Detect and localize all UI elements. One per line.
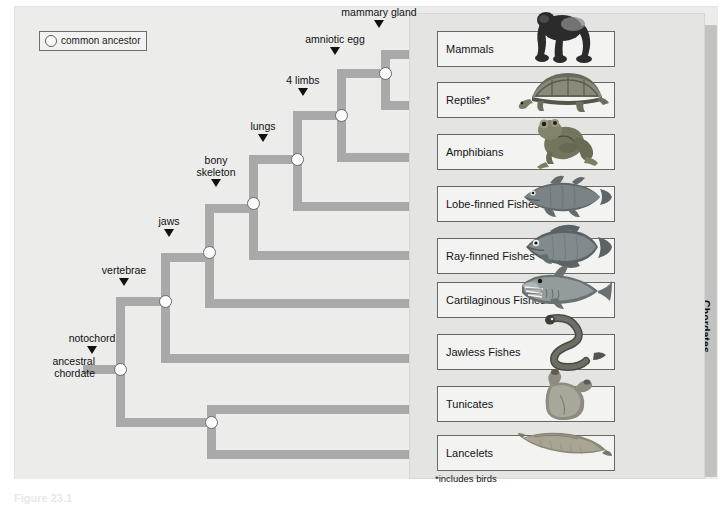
taxon-box-ray-finned-fishes[interactable]: Ray-finned Fishes (437, 238, 615, 274)
figure-phylogenetic-tree: common ancestor (0, 0, 720, 506)
arrow-down-icon (374, 20, 384, 28)
trait-bony-skeleton-label-line1: bony (183, 155, 249, 167)
arrow-down-icon (119, 278, 129, 286)
trait-amniotic-egg: amniotic egg (287, 34, 383, 55)
trait-four-limbs-label: 4 limbs (271, 75, 335, 87)
taxon-box-amphibians[interactable]: Amphibians (437, 134, 615, 170)
taxon-box-reptiles[interactable]: Reptiles* (437, 82, 615, 118)
trait-notochord: notochord (55, 333, 129, 354)
trait-four-limbs: 4 limbs (271, 75, 335, 96)
trait-mammary-gland-label: mammary gland (315, 7, 443, 19)
branch-to-tunicates (207, 405, 439, 414)
taxon-box-tunicates[interactable]: Tunicates (437, 386, 615, 422)
branch-to-lancelets (207, 450, 439, 459)
taxon-label-tunicates: Tunicates (446, 398, 493, 410)
arrow-down-icon (258, 134, 268, 142)
branch-vertebrates-vertical (161, 253, 170, 363)
root-taxon-label: ancestral chordate (23, 355, 95, 379)
trait-vertebrae-label: vertebrae (87, 265, 161, 277)
taxon-box-cartilaginous-fishes[interactable]: Cartilaginous Fishes (437, 282, 615, 318)
trait-lungs: lungs (233, 121, 293, 142)
taxon-label-reptiles: Reptiles* (446, 94, 490, 106)
node-bony-skeleton (247, 197, 260, 210)
taxon-box-lobe-finned-fishes[interactable]: Lobe-finned Fishes (437, 186, 615, 222)
trait-jaws: jaws (143, 216, 195, 237)
node-tunicates-lancelets (205, 416, 218, 429)
trait-jaws-label: jaws (143, 216, 195, 228)
figure-caption: Figure 23.1 (14, 492, 72, 504)
node-chordates (114, 363, 127, 376)
arrow-down-icon (164, 229, 174, 237)
branch-root-vertical (116, 297, 125, 427)
branch-bony-upper (249, 155, 296, 164)
node-tetrapods (335, 109, 348, 122)
branch-to-cartilaginous-fishes (205, 299, 439, 308)
legend-common-ancestor: common ancestor (39, 31, 147, 51)
trait-lungs-label: lungs (233, 121, 293, 133)
footnote-includes-birds: *includes birds (435, 473, 497, 484)
taxon-label-jawless-fishes: Jawless Fishes (446, 346, 521, 358)
taxon-box-jawless-fishes[interactable]: Jawless Fishes (437, 334, 615, 370)
trait-bony-skeleton: bony skeleton (183, 155, 249, 187)
branch-lungs-upper (293, 111, 341, 120)
taxon-label-mammals: Mammals (446, 43, 494, 55)
taxon-box-mammals[interactable]: Mammals (437, 31, 615, 67)
diagram-panel: common ancestor (14, 6, 718, 479)
taxon-label-lancelets: Lancelets (446, 447, 493, 459)
branch-vertebrates-upper (161, 253, 207, 262)
legend-label: common ancestor (61, 36, 140, 46)
trait-mammary-gland: mammary gland (315, 7, 443, 28)
branch-gnathostomes-upper (205, 204, 253, 213)
node-amniotes (379, 67, 392, 80)
arrow-down-icon (87, 346, 97, 354)
trait-bony-skeleton-label-line2: skeleton (183, 167, 249, 179)
open-circle-icon (45, 35, 57, 47)
taxon-label-ray-finned-fishes: Ray-finned Fishes (446, 250, 535, 262)
node-vertebrates (159, 295, 172, 308)
taxon-box-lancelets[interactable]: Lancelets (437, 435, 615, 471)
taxon-label-lobe-finned-fishes: Lobe-finned Fishes (446, 198, 540, 210)
branch-tetrapods-upper (337, 69, 385, 78)
arrow-down-icon (298, 88, 308, 96)
trait-vertebrae: vertebrae (87, 265, 161, 286)
trait-amniotic-egg-label: amniotic egg (287, 34, 383, 46)
taxon-label-amphibians: Amphibians (446, 146, 503, 158)
branch-to-jawless-fishes (161, 354, 439, 363)
branch-root-lower (116, 418, 216, 427)
arrow-down-icon (211, 179, 221, 187)
arrow-down-icon (330, 47, 340, 55)
node-gnathostomes (203, 246, 216, 259)
node-lungs (291, 153, 304, 166)
trait-notochord-label: notochord (55, 333, 129, 345)
taxon-label-cartilaginous-fishes: Cartilaginous Fishes (446, 294, 546, 306)
root-label-line1: ancestral (52, 355, 95, 367)
root-label-line2: chordate (54, 367, 95, 379)
